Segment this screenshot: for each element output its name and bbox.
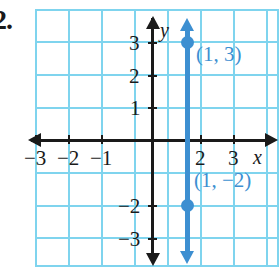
x-tick-label-neg3: −3 <box>24 148 46 169</box>
gridline-horizontal <box>35 9 279 11</box>
gridline-horizontal <box>35 107 279 109</box>
gridline-vertical <box>167 9 169 267</box>
gridline-horizontal <box>35 74 279 76</box>
gridline-horizontal <box>35 205 279 207</box>
y-axis-down-arrow-icon <box>146 253 160 266</box>
x-tick-label-neg1: −1 <box>90 148 112 169</box>
gridline-horizontal <box>35 237 279 239</box>
graph-figure: 2. −3 −2 −1 2 3 3 2 <box>0 0 280 279</box>
point-label-1-neg2: (1, −2) <box>194 170 251 191</box>
y-tick-label-2: 2 <box>129 66 140 87</box>
x-tick-label-2: 2 <box>195 148 206 169</box>
graph-line-down-arrow-icon <box>180 251 194 264</box>
y-tick-label-3: 3 <box>129 33 140 54</box>
y-tick-mark <box>148 205 157 207</box>
y-axis <box>151 18 154 261</box>
y-tick-mark <box>148 107 157 109</box>
gridline-horizontal <box>35 41 279 43</box>
y-tick-label-neg2: −2 <box>118 196 140 217</box>
y-tick-mark <box>148 42 157 44</box>
x-tick-mark <box>200 135 202 144</box>
plot-point-1-3 <box>181 36 194 49</box>
y-tick-mark <box>148 75 157 77</box>
y-axis-label: y <box>160 20 169 40</box>
x-axis-right-arrow-icon <box>265 133 278 147</box>
problem-number: 2. <box>0 6 12 34</box>
x-tick-mark <box>35 135 37 144</box>
graph-line-x-equals-1 <box>185 28 190 254</box>
y-axis-up-arrow-icon <box>146 16 160 29</box>
coordinate-grid <box>35 9 279 267</box>
y-tick-mark <box>148 238 157 240</box>
x-axis-label: x <box>253 147 262 167</box>
x-tick-mark <box>233 135 235 144</box>
graph-line-up-arrow-icon <box>180 18 194 31</box>
x-tick-mark <box>68 135 70 144</box>
x-tick-label-3: 3 <box>228 148 239 169</box>
plot-point-1-neg2 <box>181 199 194 212</box>
x-tick-mark <box>101 135 103 144</box>
x-tick-label-neg2: −2 <box>57 148 79 169</box>
point-label-1-3: (1, 3) <box>196 44 242 65</box>
y-tick-label-1: 1 <box>130 98 141 119</box>
y-tick-label-neg3: −3 <box>118 229 140 250</box>
